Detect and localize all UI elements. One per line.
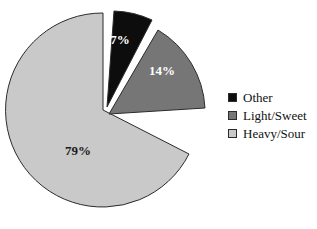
slice-label-light-sweet: 14%: [149, 63, 175, 78]
chart-legend: Other Light/Sweet Heavy/Sour: [228, 88, 314, 142]
legend-label-heavy-sour: Heavy/Sour: [243, 126, 305, 141]
slice-label-heavy-sour: 79%: [65, 143, 91, 158]
legend-item-light-sweet[interactable]: Light/Sweet: [228, 106, 314, 124]
slice-label-other: 7%: [110, 32, 130, 47]
legend-item-heavy-sour[interactable]: Heavy/Sour: [228, 124, 314, 142]
legend-swatch-light-sweet-icon: [228, 111, 237, 120]
legend-swatch-heavy-sour-icon: [228, 129, 237, 138]
pie-chart-figure: 7% 14% 79% Other Light/Sweet Heavy/Sour: [0, 0, 317, 229]
legend-label-other: Other: [243, 90, 273, 105]
legend-swatch-other-icon: [228, 93, 237, 102]
legend-item-other[interactable]: Other: [228, 88, 314, 106]
legend-label-light-sweet: Light/Sweet: [243, 108, 307, 123]
